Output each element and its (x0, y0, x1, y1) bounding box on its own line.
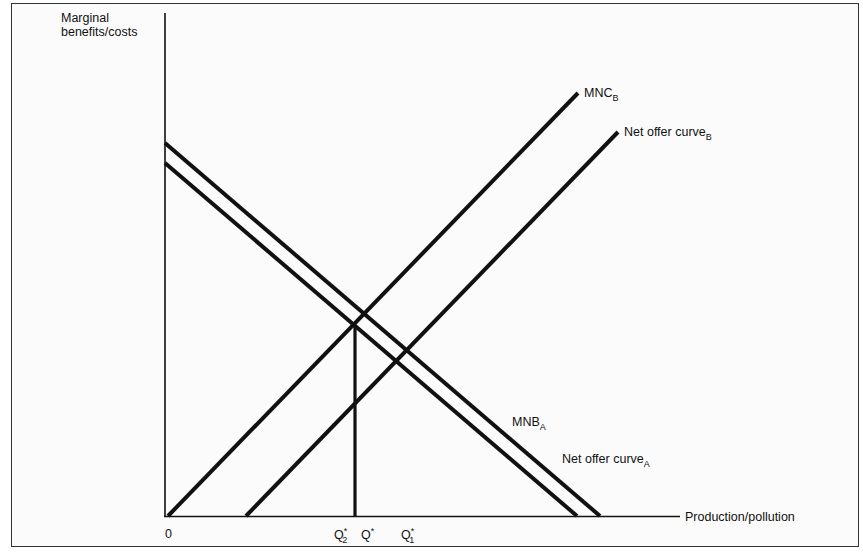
mnc-b-label: MNCB (584, 86, 618, 105)
origin-label: 0 (165, 527, 172, 541)
y-axis-label-line2: benefits/costs (61, 25, 137, 39)
net-offer-b-subscript: B (706, 132, 712, 142)
x-axis-label: Production/pollution (685, 510, 795, 524)
net-offer-curve-a-line (165, 163, 577, 516)
net-offer-a-text: Net offer curve (562, 452, 644, 466)
q-star-sup: * (371, 526, 375, 536)
mnc-b-subscript: B (612, 93, 618, 103)
mnb-a-subscript: A (540, 422, 546, 432)
diagram-canvas (0, 0, 863, 555)
net-offer-a-subscript: A (644, 459, 650, 469)
q-star-q: Q (361, 528, 371, 542)
mnb-a-label: MNBA (512, 415, 546, 434)
q1-star-label: Q*1 (401, 524, 414, 547)
y-axis-label-line1: Marginal (61, 11, 137, 25)
net-offer-curve-a-label: Net offer curveA (562, 452, 650, 471)
q2-star-label: Q*2 (334, 524, 347, 547)
q2-star-sub: 2 (342, 535, 347, 545)
mnb-a-line (165, 143, 600, 516)
mnc-b-text: MNC (584, 86, 612, 100)
mnb-a-text: MNB (512, 415, 540, 429)
q-star-label: Q* (361, 524, 374, 542)
y-axis-label: Marginal benefits/costs (61, 11, 137, 39)
mnc-b-line (168, 93, 578, 516)
net-offer-curve-b-label: Net offer curveB (624, 125, 712, 144)
q1-star-sub: 1 (409, 535, 414, 545)
net-offer-b-text: Net offer curve (624, 125, 706, 139)
